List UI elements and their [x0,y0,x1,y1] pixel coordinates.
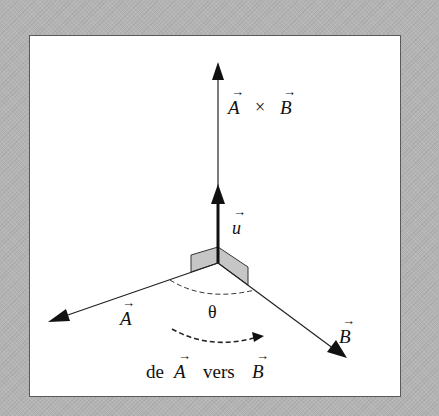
cross-product-arrowhead-icon [212,62,224,80]
cross-a-label: A [226,97,240,118]
cross-b-label: B [280,97,292,118]
vector-a-label: A [118,308,132,329]
cross-a-arrow-icon: → [231,84,244,99]
vector-a-line [62,263,218,317]
unit-vector-arrow-icon: → [233,204,246,219]
vector-a-arrow-icon: → [122,295,135,310]
cross-b-arrow-icon: → [283,84,296,99]
direction-arrowhead-icon [252,332,264,342]
caption-a: A [172,361,186,382]
vector-b-arrow-icon: → [342,313,355,328]
unit-vector-arrowhead-icon [211,184,225,204]
caption-middle: vers [203,361,235,382]
caption-prefix: de [146,361,164,382]
direction-arc [172,329,254,342]
caption-b-arrow-icon: → [256,348,269,363]
cross-product-diagram: A → × B → u → A → θ B → de A → vers B → [0,0,439,416]
unit-vector-label: u [232,218,241,238]
vector-a-arrowhead-icon [48,309,70,322]
vector-b-label: B [339,326,351,347]
vector-b-line [218,263,334,349]
angle-label: θ [208,302,217,322]
angle-arc [170,280,255,294]
caption-a-arrow-icon: → [178,348,191,363]
times-symbol: × [255,97,265,117]
caption-b: B [252,361,264,382]
